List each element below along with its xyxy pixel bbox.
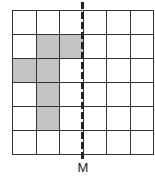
grid-cell (59, 82, 84, 107)
grid-cell (12, 10, 37, 35)
grid-cell (83, 130, 108, 155)
grid-cell (130, 34, 155, 59)
shaded-cell (36, 106, 61, 131)
grid-cell (106, 106, 131, 131)
grid-cell (106, 10, 131, 35)
grid-cell (83, 10, 108, 35)
grid-cell (59, 10, 84, 35)
grid-cell (12, 106, 37, 131)
shaded-cell (12, 58, 37, 83)
shaded-cell (36, 82, 61, 107)
grid-cell (83, 106, 108, 131)
shaded-cell (36, 58, 61, 83)
grid-cell (83, 34, 108, 59)
grid-cell (12, 82, 37, 107)
grid-cell (130, 130, 155, 155)
grid-cell (12, 130, 37, 155)
grid-cell (106, 34, 131, 59)
grid-cell (130, 58, 155, 83)
grid-cell (130, 82, 155, 107)
mirror-line-m (81, 2, 84, 161)
grid-cell (59, 58, 84, 83)
grid-cell (130, 10, 155, 35)
shaded-cell (36, 34, 61, 59)
grid-cell (83, 58, 108, 83)
grid-cell (12, 34, 37, 59)
grid-cell (36, 10, 61, 35)
grid-cell (59, 130, 84, 155)
grid-cell (83, 82, 108, 107)
grid-cell (106, 58, 131, 83)
mirror-line-label: M (76, 160, 90, 175)
shaded-cell (59, 34, 84, 59)
grid-cell (36, 130, 61, 155)
grid-cell (106, 82, 131, 107)
grid-cell (59, 106, 84, 131)
grid-cell (130, 106, 155, 131)
grid-cell (106, 130, 131, 155)
